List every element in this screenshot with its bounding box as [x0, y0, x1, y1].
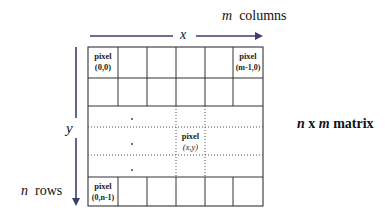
y-axis-label: y [66, 120, 73, 137]
x-arrowhead-icon [255, 32, 263, 40]
title-word: matrix [333, 116, 373, 131]
pixel-word: pixel [176, 131, 205, 142]
pixel-coord: (0,0) [88, 62, 118, 73]
pixel-coord: (0,n-1) [88, 192, 118, 203]
pixel-center: pixel (x,y) [176, 131, 205, 153]
matrix-diagram [0, 0, 390, 214]
title-n: n [297, 116, 305, 131]
pixel-word: pixel [233, 51, 263, 62]
columns-var: m [222, 8, 232, 23]
pixel-word: pixel [88, 181, 118, 192]
pixel-coord: (x,y) [176, 142, 205, 153]
matrix-title: n x m matrix [297, 116, 374, 132]
pixel-word: pixel [88, 51, 118, 62]
pixel-top-left: pixel (0,0) [88, 51, 118, 73]
rows-text: rows [35, 183, 62, 198]
title-m: m [319, 116, 330, 131]
columns-text: columns [239, 8, 286, 23]
rows-var: n [21, 183, 28, 198]
title-x: x [308, 116, 315, 131]
rows-label: n rows [21, 183, 62, 199]
y-arrowhead-icon [72, 198, 80, 206]
pixel-bottom-left: pixel (0,n-1) [88, 181, 118, 203]
pixel-top-right: pixel (m-1,0) [233, 51, 263, 73]
x-axis-label: x [180, 27, 186, 43]
columns-label: m columns [222, 8, 287, 24]
pixel-coord: (m-1,0) [233, 62, 263, 73]
